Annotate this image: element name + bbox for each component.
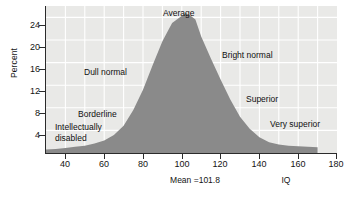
x-tick-180: 180 — [316, 160, 348, 169]
annotation-borderline: Borderline — [78, 109, 117, 120]
annotation-intellectually-disabled: Intellectually disabled — [55, 122, 125, 143]
x-tick-60: 60 — [84, 160, 124, 169]
x-axis-line — [45, 153, 337, 154]
x-tick-40: 40 — [45, 160, 85, 169]
annotation-bright-normal: Bright normal — [222, 50, 273, 61]
annotation-dull-normal: Dull normal — [84, 67, 127, 78]
y-axis-tick-labels: 24 20 16 12 8 4 — [16, 0, 40, 198]
x-tick-80: 80 — [123, 160, 163, 169]
y-tick-20: 20 — [18, 43, 40, 52]
plot-area: Intellectually disabled Borderline Dull … — [46, 6, 337, 153]
y-tick-12: 12 — [18, 87, 40, 96]
mean-caption: Mean =101.8 — [140, 175, 250, 185]
x-tick-140: 140 — [239, 160, 279, 169]
annotation-superior: Superior — [246, 94, 278, 105]
y-tick-8: 8 — [18, 109, 40, 118]
annotation-average: Average — [163, 8, 195, 19]
annotation-very-superior: Very superior — [270, 119, 320, 130]
y-tick-4: 4 — [18, 131, 40, 140]
x-axis-label: IQ — [266, 175, 306, 185]
annotation-intellectually-disabled-line2: disabled — [55, 133, 87, 143]
x-tick-100: 100 — [162, 160, 202, 169]
iq-distribution-chart: Percent 24 20 16 12 8 4 — [0, 0, 348, 198]
annotation-intellectually-disabled-line1: Intellectually — [55, 122, 102, 132]
x-tick-160: 160 — [278, 160, 318, 169]
x-tick-120: 120 — [200, 160, 240, 169]
y-tick-24: 24 — [18, 21, 40, 30]
y-tick-16: 16 — [18, 65, 40, 74]
